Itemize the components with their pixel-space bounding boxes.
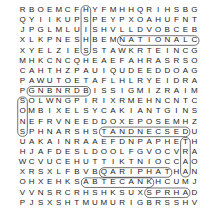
grid-letter[interactable]: V [54,117,63,127]
grid-letter[interactable]: R [181,76,190,86]
grid-letter[interactable]: E [154,46,163,56]
grid-letter[interactable]: A [145,137,154,147]
grid-letter[interactable]: S [163,56,172,66]
grid-letter[interactable]: M [27,106,36,116]
grid-letter[interactable]: L [81,147,90,157]
grid-letter[interactable]: L [45,25,54,35]
grid-letter[interactable]: G [36,25,45,35]
grid-letter[interactable]: U [163,15,172,25]
grid-letter[interactable]: I [127,198,136,208]
grid-letter[interactable]: H [154,15,163,25]
grid-letter[interactable]: A [81,66,90,76]
grid-letter[interactable]: E [72,46,81,56]
grid-letter[interactable]: S [81,15,90,25]
grid-letter[interactable]: H [81,127,90,137]
grid-letter[interactable]: M [108,35,117,45]
grid-letter[interactable]: E [108,177,117,187]
grid-letter[interactable]: S [81,46,90,56]
grid-letter[interactable]: L [127,25,136,35]
grid-letter[interactable]: N [190,167,199,177]
grid-letter[interactable]: A [181,167,190,177]
grid-letter[interactable]: B [45,86,54,96]
grid-letter[interactable]: J [27,147,36,157]
grid-letter[interactable]: U [45,76,54,86]
grid-letter[interactable]: G [136,147,145,157]
grid-letter[interactable]: H [136,56,145,66]
grid-letter[interactable]: G [27,86,36,96]
grid-letter[interactable]: R [118,167,127,177]
grid-letter[interactable]: E [45,177,54,187]
grid-letter[interactable]: S [18,127,27,137]
grid-letter[interactable]: C [45,56,54,66]
grid-letter[interactable]: V [190,198,199,208]
grid-letter[interactable]: F [36,117,45,127]
grid-letter[interactable]: T [99,127,108,137]
grid-letter[interactable]: C [181,46,190,56]
grid-letter[interactable]: I [45,106,54,116]
grid-letter[interactable]: A [127,56,136,66]
grid-letter[interactable]: N [145,106,154,116]
grid-letter[interactable]: P [154,137,163,147]
grid-letter[interactable]: P [90,15,99,25]
grid-letter[interactable]: Z [54,46,63,56]
grid-letter[interactable]: A [181,157,190,167]
grid-letter[interactable]: M [54,5,63,15]
grid-letter[interactable]: T [190,15,199,25]
grid-letter[interactable]: I [127,167,136,177]
grid-letter[interactable]: P [18,76,27,86]
grid-letter[interactable]: O [154,147,163,157]
grid-letter[interactable]: T [154,106,163,116]
grid-letter[interactable]: H [181,198,190,208]
grid-letter[interactable]: H [145,167,154,177]
grid-letter[interactable]: T [127,157,136,167]
grid-letter[interactable]: W [36,76,45,86]
grid-letter[interactable]: A [81,177,90,187]
grid-letter[interactable]: T [54,76,63,86]
grid-letter[interactable]: U [190,127,199,137]
grid-letter[interactable]: L [45,46,54,56]
grid-letter[interactable]: D [99,117,108,127]
grid-letter[interactable]: N [136,157,145,167]
grid-letter[interactable]: L [63,25,72,35]
grid-letter[interactable]: S [72,127,81,137]
grid-letter[interactable]: K [54,15,63,25]
grid-letter[interactable]: D [118,137,127,147]
grid-letter[interactable]: Y [90,106,99,116]
grid-letter[interactable]: E [63,35,72,45]
grid-letter[interactable]: H [72,157,81,167]
grid-letter[interactable]: H [163,5,172,15]
grid-letter[interactable]: X [136,188,145,198]
grid-letter[interactable]: E [63,157,72,167]
grid-letter[interactable]: N [63,137,72,147]
grid-letter[interactable]: B [190,25,199,35]
grid-letter[interactable]: H [36,66,45,76]
grid-letter[interactable]: A [154,56,163,66]
grid-letter[interactable]: E [36,46,45,56]
grid-letter[interactable]: F [127,147,136,157]
grid-letter[interactable]: S [163,127,172,137]
grid-letter[interactable]: T [136,35,145,45]
grid-letter[interactable]: C [163,157,172,167]
grid-letter[interactable]: R [18,5,27,15]
grid-letter[interactable]: O [172,66,181,76]
grid-letter[interactable]: A [172,86,181,96]
grid-letter[interactable]: X [45,167,54,177]
grid-letter[interactable]: X [54,106,63,116]
grid-letter[interactable]: G [63,96,72,106]
grid-letter[interactable]: S [72,35,81,45]
grid-letter[interactable]: A [27,76,36,86]
grid-letter[interactable]: H [63,198,72,208]
grid-letter[interactable]: A [90,137,99,147]
grid-letter[interactable]: D [127,66,136,76]
grid-letter[interactable]: N [163,35,172,45]
grid-letter[interactable]: O [154,157,163,167]
grid-letter[interactable]: L [181,35,190,45]
grid-letter[interactable]: O [190,56,199,66]
grid-letter[interactable]: U [18,137,27,147]
grid-letter[interactable]: F [45,147,54,157]
grid-letter[interactable]: D [136,25,145,35]
grid-letter[interactable]: P [72,15,81,25]
grid-letter[interactable]: U [81,157,90,167]
grid-letter[interactable]: A [145,15,154,25]
grid-letter[interactable]: Q [108,66,117,76]
